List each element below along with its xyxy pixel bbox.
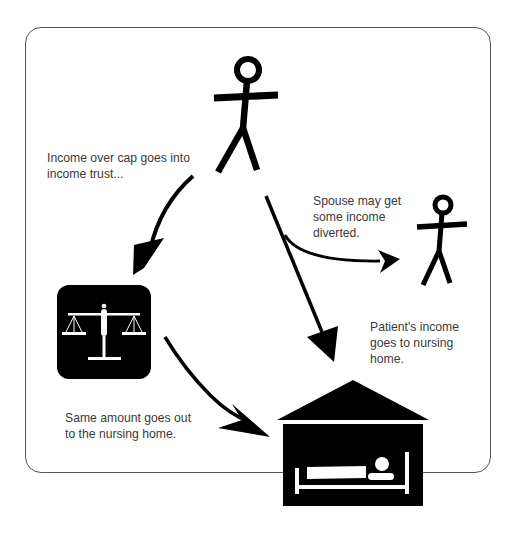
label-line: Same amount goes out	[65, 410, 191, 426]
label-line: to the nursing home.	[65, 426, 191, 442]
label-line: Patient's income	[370, 319, 459, 335]
nursing-home-icon	[277, 380, 429, 506]
label-income-over-cap: Income over cap goes into income trust..…	[47, 150, 190, 182]
spouse-figure-icon	[417, 197, 467, 285]
scales-of-justice-icon	[57, 285, 151, 379]
label-line: goes to nursing	[370, 335, 459, 351]
arrow-patient-to-trust	[133, 176, 193, 275]
label-patient-income: Patient's income goes to nursing home.	[370, 319, 459, 367]
label-line: Income over cap goes into	[47, 150, 190, 166]
label-line: diverted.	[313, 225, 401, 241]
patient-figure-icon	[214, 59, 278, 172]
label-spouse-income: Spouse may get some income diverted.	[313, 193, 401, 241]
label-line: some income	[313, 209, 401, 225]
label-line: Spouse may get	[313, 193, 401, 209]
diagram-canvas	[0, 0, 517, 548]
label-line: income trust...	[47, 166, 190, 182]
label-same-amount: Same amount goes out to the nursing home…	[65, 410, 191, 442]
label-line: home.	[370, 351, 459, 367]
